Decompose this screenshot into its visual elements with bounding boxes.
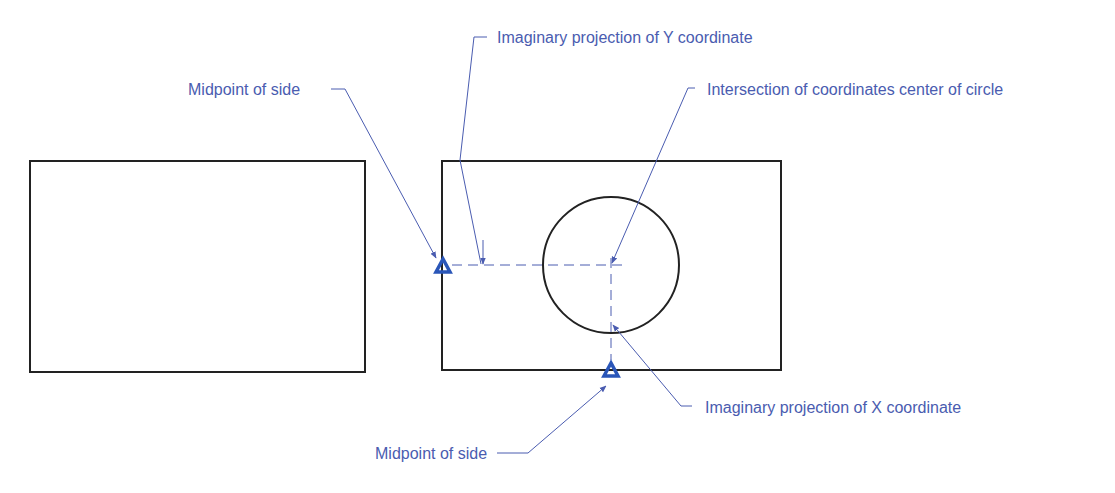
label-x-projection: Imaginary projection of X coordinate xyxy=(705,399,961,416)
leader-y-projection xyxy=(460,37,487,264)
coordinate-diagram: Midpoint of side Imaginary projection of… xyxy=(0,0,1115,493)
label-y-projection: Imaginary projection of Y coordinate xyxy=(497,29,753,46)
label-midpoint-left: Midpoint of side xyxy=(188,81,300,98)
leader-midpoint-left xyxy=(331,89,436,258)
label-intersection: Intersection of coordinates center of ci… xyxy=(707,81,1003,98)
leader-x-projection xyxy=(613,325,692,406)
leader-intersection xyxy=(612,88,695,263)
label-midpoint-bottom: Midpoint of side xyxy=(375,445,487,462)
left-rectangle xyxy=(30,161,365,372)
leader-midpoint-bottom xyxy=(497,386,606,453)
